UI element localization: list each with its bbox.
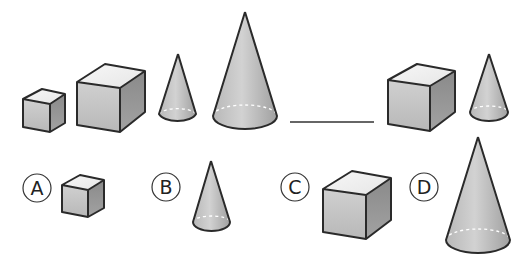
option-c[interactable]: C: [281, 171, 391, 239]
option-b-label: B: [159, 176, 172, 198]
option-c-large-cube-icon: [323, 171, 391, 239]
option-a-small-cube-icon: [62, 175, 104, 217]
option-b-small-cone-icon: [193, 161, 230, 231]
option-a[interactable]: A: [23, 174, 104, 217]
option-d-label: D: [417, 176, 432, 198]
option-a-label: A: [31, 177, 44, 199]
option-d-large-cone-icon: [446, 137, 510, 253]
large-cube-icon: [77, 64, 145, 132]
small-cube-icon: [23, 89, 65, 132]
option-c-label: C: [288, 176, 301, 198]
small-cone-icon: [159, 54, 196, 121]
option-b[interactable]: B: [152, 161, 230, 231]
analog-large-cube-icon: [388, 64, 455, 131]
large-cone-icon: [213, 12, 277, 129]
analogy-diagram: A B C D: [0, 0, 524, 260]
analog-small-cone-icon: [470, 54, 508, 121]
option-d[interactable]: D: [410, 137, 510, 253]
